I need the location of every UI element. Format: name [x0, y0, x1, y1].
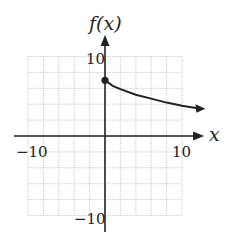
x-max-tick-label: 10	[172, 143, 191, 161]
y-max-tick-label: 10	[86, 50, 105, 68]
x-axis-label: x	[209, 123, 220, 145]
x-min-tick-label: −10	[16, 143, 48, 161]
y-axis-arrow-icon	[101, 35, 110, 46]
y-axis-label: f(x)	[87, 12, 122, 34]
start-point	[101, 77, 108, 84]
function-graph: f(x) x −10 10 10 −10	[0, 0, 228, 249]
x-axis-arrow-icon	[193, 132, 204, 141]
curve-end-arrow-icon	[195, 104, 205, 113]
axes	[14, 35, 204, 232]
y-min-tick-label: −10	[74, 210, 106, 228]
